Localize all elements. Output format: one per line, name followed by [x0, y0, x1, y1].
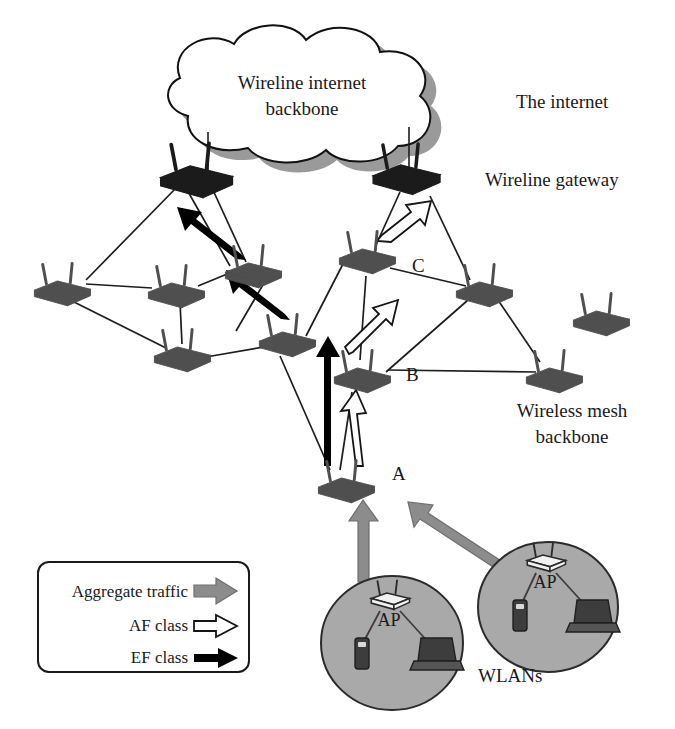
- mesh-link: [390, 268, 466, 286]
- af-class-flows: [341, 201, 431, 466]
- mesh-routers: [34, 231, 629, 502]
- mesh-link: [86, 186, 178, 280]
- mesh-link: [186, 188, 230, 266]
- annotation-wireless-mesh-line2: backbone: [536, 426, 609, 447]
- wlan-right-ap-label: AP: [533, 572, 556, 592]
- node-label-a: A: [392, 463, 406, 484]
- annotation-wireline-gateway: Wireline gateway: [485, 169, 619, 190]
- mesh-link: [280, 356, 330, 470]
- cloud-label-line2: backbone: [266, 98, 339, 119]
- aggregate-arrow: [349, 500, 378, 582]
- mesh-link: [386, 300, 468, 372]
- node-label-c: C: [412, 255, 425, 276]
- mobile-phone: [355, 638, 369, 669]
- af-arrow: [377, 201, 431, 242]
- mesh-router: [148, 265, 204, 307]
- mesh-link: [86, 284, 152, 288]
- cloud-label-line1: Wireline internet: [238, 72, 367, 93]
- annotation-wlans: WLANs: [478, 665, 542, 686]
- annotation-wireless-mesh-line1: Wireless mesh: [517, 400, 628, 421]
- network-diagram: Wireline internet backbone: [0, 0, 675, 729]
- mesh-links: [70, 186, 540, 470]
- wlan-right: AP: [478, 542, 620, 672]
- mesh-router-node-b: [334, 350, 390, 392]
- legend-label-ef: EF class: [131, 648, 188, 667]
- mesh-link: [360, 276, 366, 360]
- node-label-b: B: [406, 364, 419, 385]
- wlan-left: AP: [321, 576, 464, 710]
- mobile-phone: [513, 600, 527, 631]
- wlan-left-ap-label: AP: [377, 610, 400, 630]
- mesh-router: [34, 263, 90, 305]
- mesh-link: [306, 262, 344, 336]
- mesh-router: [573, 293, 629, 335]
- legend-label-af: AF class: [129, 616, 188, 635]
- legend-label-aggregate: Aggregate traffic: [72, 582, 189, 601]
- legend: Aggregate traffic AF class EF class: [38, 562, 249, 672]
- af-arrow: [341, 390, 366, 466]
- mesh-link: [70, 300, 166, 348]
- af-arrow: [345, 300, 398, 354]
- mesh-router-node-a: [318, 460, 374, 502]
- ef-class-flows: [177, 207, 340, 466]
- annotation-the-internet: The internet: [516, 91, 609, 112]
- mesh-link: [206, 347, 264, 357]
